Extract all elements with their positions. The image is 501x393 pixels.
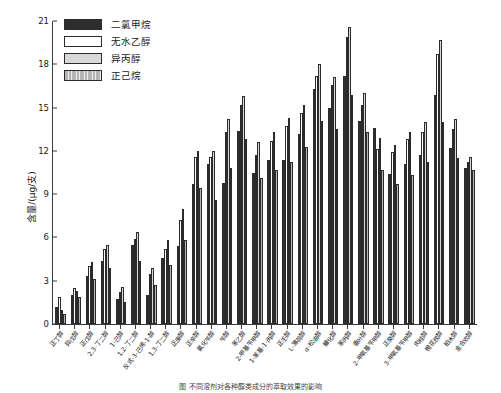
y-tick-label: 15 [38,103,53,112]
figure-caption: 图 不同溶剂对各种醇类成分的萃取效果的影响 [0,381,501,391]
legend-swatch-ethanol [64,36,102,47]
legend-item-3: 正己烷 [64,67,151,84]
x-label-slot: 肉桂醇 [416,329,431,387]
bar-group [386,21,401,324]
legend-label-3: 正己烷 [111,71,141,81]
legend-swatch-dichloromethane [64,19,102,30]
bar-3-27 [472,170,475,324]
legend-label-2: 异丙醇 [111,54,141,64]
bar-group [235,21,250,324]
x-label-slot: 1-苯基-1-丙醇 [264,329,279,387]
legend-item-1: 无水乙醇 [64,33,151,50]
bar-3-19 [351,95,354,324]
y-tick-label: 6 [44,233,53,242]
bar-group [447,21,462,324]
x-tick-label: 苄醇 [219,330,231,343]
bar-3-8 [184,240,187,324]
bar-3-13 [260,178,263,324]
y-tick-mark [53,280,57,281]
legend-label-1: 无水乙醇 [111,37,151,47]
legend-label-0: 二氯甲烷 [111,20,151,30]
x-label-slot: 金合欢醇 [462,329,477,387]
bar-group [250,21,265,324]
x-label-slot: 正壬醇 [280,329,295,387]
bar-3-26 [457,158,460,324]
x-label-slot: 氯化苄醇 [204,329,219,387]
y-tick-label: 3 [44,276,53,285]
bar-group [189,21,204,324]
x-label-slot: 3-甲氧基苄甲醇 [401,329,416,387]
bar-group [280,21,295,324]
legend-item-2: 异丙醇 [64,50,151,67]
x-label-slot: 正辛醇 [189,329,204,387]
x-tick-label: 正丁醇 [48,330,64,348]
bar-3-0 [63,314,66,324]
bar-3-23 [411,175,414,324]
x-label-slot: 正戊醇 [82,329,97,387]
bar-3-12 [245,139,248,324]
x-label-slot: 异戊醇 [67,329,82,387]
x-label-slot: 柏木醇 [446,329,461,387]
x-label-slot: 正丁醇 [52,329,67,387]
bar-3-10 [215,200,218,324]
bar-group [462,21,477,324]
x-label-slot: 橙花叔醇 [431,329,446,387]
bar-3-5 [139,261,142,324]
bar-group [220,21,235,324]
bar-3-17 [321,121,324,324]
legend-item-0: 二氯甲烷 [64,16,151,33]
y-axis-label: 含量/(μg/支) [25,171,38,223]
bar-3-11 [230,168,233,324]
y-tick-mark [53,150,57,151]
bar-group [326,21,341,324]
bar-group [295,21,310,324]
x-label-slot: 2-甲氧基苄甲醇 [371,329,386,387]
bar-3-6 [154,285,157,324]
y-tick-label: 12 [38,147,53,156]
x-label-slot: 糠化醇 [325,329,340,387]
x-label-slot: L-薄荷醇 [295,329,310,387]
legend: 二氯甲烷 无水乙醇 异丙醇 正己烷 [64,16,151,84]
bar-3-4 [124,302,127,324]
bar-3-7 [169,265,172,324]
y-tick-label: 9 [44,190,53,199]
bar-group [310,21,325,324]
bar-3-25 [442,122,445,324]
bar-3-21 [381,170,384,324]
legend-swatch-hexane [64,70,102,81]
y-tick-label: 21 [38,17,53,26]
bar-group [159,21,174,324]
y-tick-mark [53,194,57,195]
x-axis-labels: 正丁醇异戊醇正戊醇2,3-丁二醇1-己醇1,2-丁二醇反式-3-己烯-1-醇1,… [52,329,477,387]
bar-3-24 [427,162,430,324]
x-label-slot: 1,3-丁二醇 [158,329,173,387]
bar-3-15 [290,162,293,324]
bar-3-2 [93,279,96,324]
x-label-slot: 1-己醇 [113,329,128,387]
bar-3-22 [396,184,399,324]
bar-3-20 [366,132,369,324]
bar-3-3 [109,268,112,324]
bar-3-9 [199,188,202,324]
bar-3-1 [78,297,81,324]
y-tick-label: 18 [38,60,53,69]
legend-swatch-isopropanol [64,53,102,64]
bar-3-16 [305,147,308,324]
bar-group [265,21,280,324]
bar-3-14 [275,170,278,324]
bar-group [341,21,356,324]
x-label-slot: 苄醇 [219,329,234,387]
figure-root: 含量/(μg/支) 036912151821 正丁醇异戊醇正戊醇2,3-丁二醇1… [0,0,501,393]
x-label-slot: α-松油醇 [310,329,325,387]
x-label-slot: 正庚醇 [173,329,188,387]
bar-group [416,21,431,324]
bar-group [432,21,447,324]
bar-3-18 [336,129,339,324]
bar-group [356,21,371,324]
y-tick-mark [53,237,57,238]
y-tick-mark [53,107,57,108]
bar-group [401,21,416,324]
x-label-slot: 2,3-丁二醇 [98,329,113,387]
x-label-slot: 反式-3-己烯-1-醇 [143,329,158,387]
y-tick-mark [53,21,57,22]
